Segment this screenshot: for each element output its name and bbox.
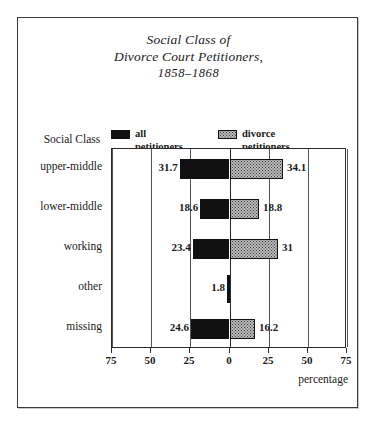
y-axis-title: Social Class <box>26 133 118 145</box>
legend-label-line-1: all <box>135 128 146 139</box>
x-axis-tick-label: 75 <box>331 354 361 366</box>
chart-row: lower-middle18.618.8 <box>112 189 345 229</box>
value-label-all-petitioners: 31.7 <box>132 161 178 174</box>
value-label-divorce-petitioners: 16.2 <box>259 321 278 334</box>
plot-area: upper-middle31.734.1lower-middle18.618.8… <box>111 148 346 348</box>
category-label: other <box>10 280 102 292</box>
category-label: lower-middle <box>10 200 102 212</box>
category-label: working <box>10 240 102 252</box>
legend-label-line-1: divorce <box>242 128 275 139</box>
figure-frame: Social Class of Divorce Court Petitioner… <box>17 17 358 408</box>
x-axis-title: percentage <box>18 373 348 385</box>
x-axis-tick-label: 50 <box>292 354 322 366</box>
x-axis-tick-label: 50 <box>135 354 165 366</box>
x-axis-tick-label: 75 <box>96 354 126 366</box>
bar-all-petitioners <box>193 239 230 259</box>
x-axis-tick <box>307 348 308 353</box>
chart-title: Social Class of Divorce Court Petitioner… <box>18 31 359 82</box>
title-line-2: Divorce Court Petitioners, <box>18 48 359 65</box>
x-axis-tick <box>111 348 112 353</box>
stipple-swatch-icon <box>218 130 237 139</box>
x-axis-tick-label: 25 <box>253 354 283 366</box>
value-label-all-petitioners: 1.8 <box>179 281 225 294</box>
bar-all-petitioners <box>180 159 230 179</box>
title-line-1: Social Class of <box>18 31 359 48</box>
category-label: missing <box>10 320 102 332</box>
value-label-all-petitioners: 24.6 <box>143 321 189 334</box>
value-label-divorce-petitioners: 34.1 <box>287 161 306 174</box>
title-line-3: 1858–1868 <box>18 65 359 82</box>
x-axis-tick <box>346 348 347 353</box>
x-axis-tick <box>150 348 151 353</box>
x-axis-tick-label: 25 <box>174 354 204 366</box>
bar-divorce-petitioners <box>230 199 259 219</box>
bar-divorce-petitioners <box>230 159 283 179</box>
x-axis-tick-label: 0 <box>214 354 244 366</box>
category-label: upper-middle <box>10 160 102 172</box>
chart-row: upper-middle31.734.1 <box>112 149 345 189</box>
bar-all-petitioners <box>200 199 229 219</box>
bar-divorce-petitioners <box>230 239 279 259</box>
value-label-all-petitioners: 18.6 <box>152 201 198 214</box>
value-label-all-petitioners: 23.4 <box>145 241 191 254</box>
value-label-divorce-petitioners: 31 <box>282 241 293 254</box>
x-axis-tick <box>229 348 230 353</box>
gridline <box>347 149 348 347</box>
chart-row: missing24.616.2 <box>112 309 345 349</box>
x-axis-tick <box>189 348 190 353</box>
bar-divorce-petitioners <box>230 319 255 339</box>
chart-row: working23.431 <box>112 229 345 269</box>
value-label-divorce-petitioners: 18.8 <box>263 201 282 214</box>
chart-row: other1.8 <box>112 269 345 309</box>
bar-all-petitioners <box>191 319 230 339</box>
bar-all-petitioners <box>227 275 230 303</box>
x-axis-tick <box>268 348 269 353</box>
